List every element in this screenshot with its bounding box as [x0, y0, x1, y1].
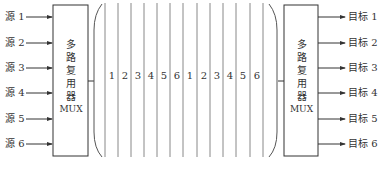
slot-label: 3	[212, 71, 222, 81]
target-label-5: 目标 5	[348, 114, 378, 124]
mux-right-char-5: 器	[284, 90, 319, 103]
mux-right-char-2: 路	[284, 51, 319, 64]
mux-left-abbr: MUX	[53, 103, 89, 116]
target-label-2: 目标 2	[348, 38, 378, 48]
mux-left-char-1: 多	[53, 38, 89, 51]
channel-right-bracket	[269, 4, 277, 157]
target-label-1: 目标 1	[348, 12, 378, 22]
mux-left-char-5: 器	[53, 90, 89, 103]
target-label-4: 目标 4	[348, 88, 378, 98]
source-label-2: 源 2	[5, 38, 25, 48]
target-label-3: 目标 3	[348, 63, 378, 73]
slot-label: 2	[199, 71, 209, 81]
mux-left-char-2: 路	[53, 51, 89, 64]
slot-label: 6	[252, 71, 262, 81]
mux-left-label: 多 路 复 用 器 MUX	[53, 38, 89, 116]
mux-left-char-4: 用	[53, 77, 89, 90]
slot-label: 3	[133, 71, 143, 81]
source-label-1: 源 1	[5, 12, 25, 22]
mux-right-char-1: 多	[284, 38, 319, 51]
slot-label: 1	[107, 71, 117, 81]
slot-label: 6	[172, 71, 182, 81]
slot-label: 5	[238, 71, 248, 81]
source-label-4: 源 4	[5, 88, 25, 98]
target-arrows	[318, 17, 345, 144]
source-label-3: 源 3	[5, 63, 25, 73]
slot-label: 4	[146, 71, 156, 81]
slot-label: 5	[159, 71, 169, 81]
slot-label: 2	[120, 71, 130, 81]
slot-label: 1	[185, 71, 195, 81]
source-arrows	[26, 17, 52, 144]
source-label-6: 源 6	[5, 139, 25, 149]
mux-right-label: 多 路 复 用 器 MUX	[284, 38, 319, 116]
mux-right-char-4: 用	[284, 77, 319, 90]
source-label-5: 源 5	[5, 114, 25, 124]
slot-label: 4	[225, 71, 235, 81]
channel-left-bracket	[94, 4, 102, 157]
mux-right-abbr: MUX	[284, 103, 319, 116]
mux-left-char-3: 复	[53, 64, 89, 77]
target-label-6: 目标 6	[348, 139, 378, 149]
mux-right-char-3: 复	[284, 64, 319, 77]
